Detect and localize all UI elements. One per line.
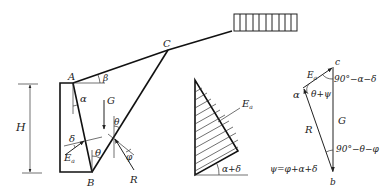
alpha-delta-arc xyxy=(217,164,219,175)
phi-label: φ xyxy=(126,152,133,162)
vertex-a-label: α xyxy=(293,89,300,100)
force-polygon: c b α Ea G R θ+ψ 90°−α−δ 90°−θ−φ ψ=φ+α+δ xyxy=(270,57,379,187)
surcharge-load xyxy=(234,14,297,31)
alpha-delta-label: α+δ xyxy=(222,164,241,174)
delta-label: δ xyxy=(69,133,75,144)
vertex-c-label: c xyxy=(335,57,340,67)
theta-label-slip: θ xyxy=(114,117,120,127)
beta-label: β xyxy=(102,73,108,83)
polygon-Ea-label: Ea xyxy=(306,70,318,81)
Ea-label-wall: Ea xyxy=(63,152,75,164)
weight-label: G xyxy=(107,95,115,106)
Ea-label-pressure: Ea xyxy=(241,98,253,110)
height-label: H xyxy=(15,121,26,134)
angle-b-label: 90°−θ−φ xyxy=(336,144,379,154)
point-A-label: A xyxy=(67,71,75,82)
psi-definition: ψ=φ+α+δ xyxy=(270,164,317,174)
Ea-leader-line xyxy=(218,108,240,122)
angle-a-label: θ+ψ xyxy=(311,89,332,99)
polygon-R-label: R xyxy=(304,124,313,135)
alpha-arc xyxy=(73,105,77,106)
alpha-label: α xyxy=(80,93,87,104)
reaction-label: R xyxy=(129,174,138,185)
point-B-label: B xyxy=(86,177,94,188)
point-C-label: C xyxy=(163,38,171,49)
theta-label-B: θ xyxy=(95,147,101,158)
vertex-b-label: b xyxy=(330,177,336,187)
wall-section: H β A C B α G xyxy=(15,14,297,188)
pressure-distribution: Ea α+δ xyxy=(195,80,253,175)
angle-b-arc xyxy=(326,150,333,152)
pressure-hatching xyxy=(195,88,238,171)
angle-c-label: 90°−α−δ xyxy=(334,74,377,84)
beta-arc xyxy=(98,75,100,83)
angle-c-arc xyxy=(322,74,333,79)
coulomb-diagram: H β A C B α G xyxy=(0,0,389,195)
polygon-G-label: G xyxy=(338,115,346,126)
